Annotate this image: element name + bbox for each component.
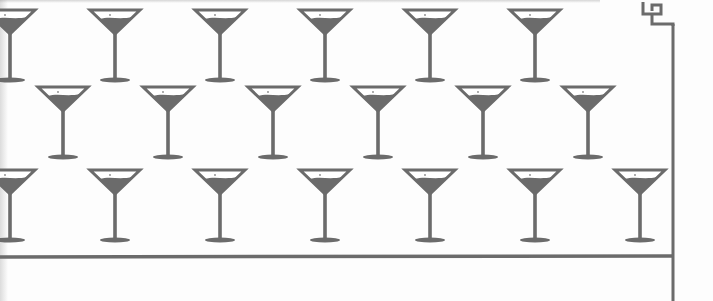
martini-glass-icon (0, 10, 35, 83)
martini-glass-icon (405, 170, 455, 243)
martini-glass-icon (563, 87, 613, 160)
martini-glasses-group (0, 10, 665, 243)
martini-glass-icon (300, 10, 350, 83)
martini-glass-icon (300, 170, 350, 243)
martini-glass-icon (405, 10, 455, 83)
martini-glass-icon (615, 170, 665, 243)
pattern-canvas (0, 0, 713, 301)
martini-glass-icon (353, 87, 403, 160)
martini-glass-icon (0, 170, 35, 243)
greek-key-border (0, 2, 673, 301)
martini-glass-icon (510, 10, 560, 83)
martini-glass-icon (510, 170, 560, 243)
martini-glass-icon (90, 170, 140, 243)
border-bottom-line (0, 256, 673, 257)
martini-glass-icon (195, 10, 245, 83)
greek-key-corner-icon (643, 2, 673, 26)
martini-glass-icon (248, 87, 298, 160)
martini-glass-icon (38, 87, 88, 160)
martini-glass-icon (195, 170, 245, 243)
martini-glass-icon (90, 10, 140, 83)
martini-glass-icon (458, 87, 508, 160)
martini-glass-icon (143, 87, 193, 160)
